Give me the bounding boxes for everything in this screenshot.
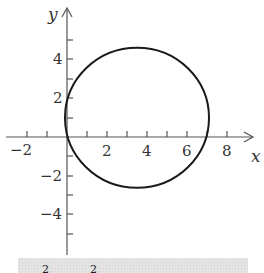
y-tick-label-2: 2: [53, 89, 63, 107]
x-tick-label-neg2: −2: [10, 141, 32, 159]
x-axis-label: x: [251, 146, 261, 166]
equation-bar: [18, 258, 248, 273]
equation-superscript-2: 2: [90, 264, 97, 273]
y-tick-label-neg4: −4: [40, 205, 62, 223]
equation-superscript-1: 2: [42, 264, 49, 273]
circle-curve: [65, 48, 209, 188]
x-tick-label-4: 4: [142, 142, 152, 160]
y-axis-label: y: [47, 4, 58, 24]
x-tick-label-2: 2: [102, 142, 112, 160]
x-tick-label-8: 8: [222, 142, 232, 160]
x-ticks: [27, 131, 227, 137]
y-tick-label-neg2: −2: [40, 167, 62, 185]
y-tick-label-4: 4: [53, 50, 63, 68]
graph: −2 2 4 6 8 4 2 −2 −4 x y: [0, 0, 264, 273]
x-tick-label-6: 6: [182, 142, 192, 160]
